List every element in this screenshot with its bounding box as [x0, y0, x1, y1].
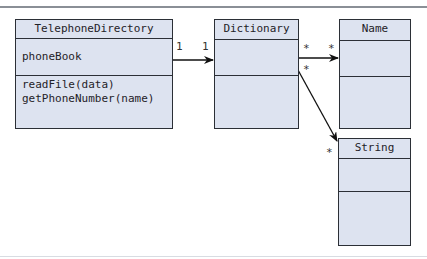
- methods-compartment: [340, 76, 410, 128]
- attributes-compartment: [340, 40, 410, 77]
- class-name-box: Name: [339, 19, 411, 129]
- attributes-compartment: phoneBook: [16, 38, 172, 76]
- attributes-compartment: [339, 158, 410, 192]
- class-telephonedirectory: TelephoneDirectory phoneBook readFile(da…: [15, 19, 173, 129]
- methods-compartment: [215, 75, 298, 128]
- multiplicity: *: [326, 146, 333, 159]
- class-string: String: [338, 138, 411, 246]
- association-dictionary-string: [298, 70, 337, 141]
- multiplicity: *: [303, 63, 310, 76]
- methods-compartment: [339, 191, 410, 245]
- multiplicity: *: [328, 42, 335, 55]
- multiplicity: 1: [176, 40, 183, 53]
- method: readFile(data): [22, 78, 115, 92]
- class-name: TelephoneDirectory: [16, 22, 172, 35]
- multiplicity: 1: [202, 40, 209, 53]
- class-dictionary: Dictionary: [214, 19, 299, 129]
- multiplicity: *: [303, 42, 310, 55]
- method: getPhoneNumber(name): [22, 92, 154, 106]
- attribute: phoneBook: [22, 50, 82, 64]
- attributes-compartment: [215, 39, 298, 76]
- methods-compartment: readFile(data) getPhoneNumber(name): [16, 75, 172, 128]
- class-name: Name: [340, 22, 410, 35]
- class-name: Dictionary: [215, 22, 298, 35]
- class-name: String: [339, 141, 410, 154]
